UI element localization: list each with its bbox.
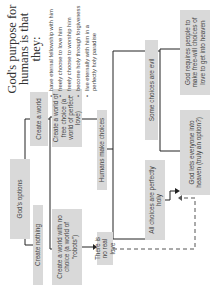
node-requires-free-will-love: God requires people to make free-will ch… <box>180 10 210 95</box>
purpose-item: become holy through forgiveness <box>75 2 82 97</box>
node-some-choices-evil: Some choices are evil <box>145 40 158 140</box>
purpose-item: freely choose to worship him <box>66 2 73 97</box>
node-lets-everyone-into-heaven: God lets everyone into heaven (truly an … <box>180 110 210 195</box>
purpose-list: have eternal fellowship with him freely … <box>48 2 100 97</box>
node-no-choice-world: Create a world with no choice (a world o… <box>52 209 82 285</box>
node-create-world: Create a world <box>30 92 48 146</box>
node-no-real-love: There is no real love <box>97 232 113 265</box>
purpose-flowchart: God's options Create nothing Create a wo… <box>0 0 219 299</box>
node-all-choices-holy: All choices are perfectly holy <box>145 160 165 240</box>
purpose-item: live eternally with him in a perfectly h… <box>84 2 97 97</box>
node-humans-make-choices: Humans make choices <box>97 110 107 190</box>
purpose-title: God's purpose for humans is that they: <box>6 4 42 94</box>
purpose-item: freely choose to love him <box>57 2 64 97</box>
node-free-choice-world: Create a world of free choice (a world o… <box>52 89 82 147</box>
node-create-nothing: Create nothing <box>33 205 43 285</box>
purpose-item: have eternal fellowship with him <box>48 2 55 97</box>
node-gods-options: God's options <box>10 159 30 239</box>
